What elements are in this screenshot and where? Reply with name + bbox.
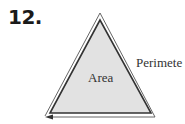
perimeter-label: Perimete	[136, 56, 182, 69]
perimeter-arrow-icon	[45, 115, 53, 120]
area-label: Area	[88, 71, 113, 84]
